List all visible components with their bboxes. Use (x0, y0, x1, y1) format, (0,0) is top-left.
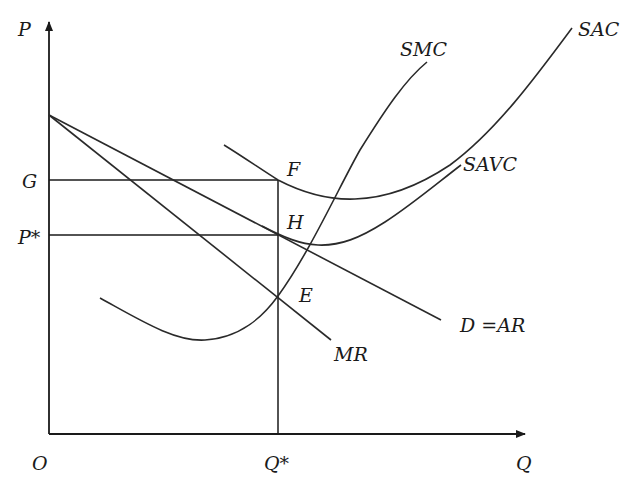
point-f-label: F (286, 158, 301, 180)
demand-ar-curve (49, 115, 441, 320)
p-star-tick-label: P* (17, 226, 41, 248)
point-h-label: H (286, 211, 304, 233)
smc-label: SMC (400, 38, 447, 60)
sac-curve (224, 28, 572, 199)
economics-diagram: P Q O G P* Q* F H E SMC SAC SAVC D =AR M… (0, 0, 637, 493)
origin-label: O (32, 452, 48, 474)
mr-label: MR (333, 343, 368, 365)
x-axis-label: Q (516, 452, 532, 474)
demand-ar-label: D =AR (459, 314, 525, 336)
q-star-tick-label: Q* (264, 452, 290, 474)
g-tick-label: G (22, 170, 37, 192)
point-e-label: E (298, 284, 313, 306)
smc-curve (100, 62, 427, 340)
sac-label: SAC (578, 18, 620, 40)
y-axis-label: P (17, 18, 32, 40)
savc-label: SAVC (463, 153, 518, 175)
